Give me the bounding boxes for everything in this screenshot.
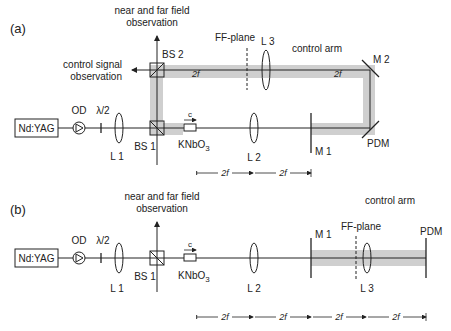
ff-plane-label-a: FF-plane bbox=[215, 32, 255, 43]
dim-2f-b-4: 2f bbox=[391, 312, 401, 322]
bs1-label-b: BS 1 bbox=[134, 271, 156, 282]
dim-2f-b-2: 2f bbox=[278, 312, 288, 322]
panel-b: (b) near and far field observation Nd:YA… bbox=[10, 191, 442, 322]
l1-label-a: L 1 bbox=[110, 151, 124, 162]
optical-setup-diagram: (a) near and far field observation contr… bbox=[0, 0, 451, 331]
dim-2f-a-1: 2f bbox=[220, 168, 230, 178]
m2-label: M 2 bbox=[373, 54, 390, 65]
od-label-b: OD bbox=[72, 235, 87, 246]
pdm-label-b: PDM bbox=[420, 226, 442, 237]
nf-ff-label-b-1: near and far field bbox=[124, 191, 199, 202]
control-arm-label-b: control arm bbox=[365, 195, 415, 206]
halfwave-label-a: λ/2 bbox=[96, 105, 110, 116]
nf-ff-label-b-2: observation bbox=[136, 203, 188, 214]
control-signal-label-1: control signal bbox=[63, 59, 122, 70]
c-axis-label-b: c bbox=[188, 240, 192, 249]
control-arm-label-a: control arm bbox=[292, 43, 342, 54]
optical-diode-icon-a bbox=[73, 122, 85, 134]
panel-a-tag: (a) bbox=[10, 21, 26, 36]
pdm-label-a: PDM bbox=[367, 138, 389, 149]
arm-2f-label-1: 2f bbox=[191, 69, 201, 79]
dim-2f-a-2: 2f bbox=[278, 168, 288, 178]
dimension-markers-a: 2f 2f bbox=[197, 167, 311, 178]
m1-label-b: M 1 bbox=[315, 229, 332, 240]
l1-label-b: L 1 bbox=[110, 283, 124, 294]
dim-2f-b-1: 2f bbox=[220, 312, 230, 322]
nf-ff-label-a-1: near and far field bbox=[114, 5, 189, 16]
c-axis-label-a: c bbox=[188, 110, 192, 119]
control-signal-label-2: observation bbox=[70, 71, 122, 82]
laser-label-b: Nd:YAG bbox=[19, 253, 55, 264]
m1-label-a: M 1 bbox=[315, 146, 332, 157]
nf-ff-label-a-2: observation bbox=[126, 17, 178, 28]
l2-label-a: L 2 bbox=[247, 152, 261, 163]
l2-label-b: L 2 bbox=[247, 283, 261, 294]
dimension-markers-b: 2f 2f 2f 2f bbox=[197, 311, 426, 322]
laser-label-a: Nd:YAG bbox=[19, 123, 55, 134]
dim-2f-b-3: 2f bbox=[334, 312, 344, 322]
ff-plane-label-b: FF-plane bbox=[341, 221, 381, 232]
bs2-label: BS 2 bbox=[162, 49, 184, 60]
optical-diode-icon-b bbox=[73, 252, 85, 264]
panel-b-tag: (b) bbox=[10, 202, 26, 217]
knbo3-crystal-b bbox=[184, 254, 196, 261]
knbo3-crystal-a bbox=[184, 124, 196, 131]
l3-label-b: L 3 bbox=[360, 283, 374, 294]
od-label-a: OD bbox=[72, 105, 87, 116]
halfwave-label-b: λ/2 bbox=[96, 235, 110, 246]
panel-a: (a) near and far field observation contr… bbox=[10, 5, 390, 178]
knbo3-label-a: KNbO3 bbox=[178, 139, 210, 153]
bs1-label-a: BS 1 bbox=[134, 141, 156, 152]
arm-2f-label-2: 2f bbox=[333, 69, 343, 79]
knbo3-label-b: KNbO3 bbox=[178, 270, 210, 284]
l3-label-a: L 3 bbox=[261, 36, 275, 47]
